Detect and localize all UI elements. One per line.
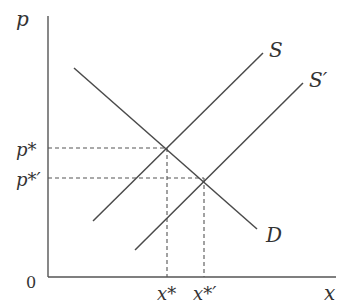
supply-curve <box>93 53 263 221</box>
p-star-prime-label: p*′ <box>16 169 41 190</box>
supply-demand-diagram: p x 0 S S′ D p* p*′ x* x*′ <box>0 0 349 304</box>
y-axis-label: p <box>16 7 29 31</box>
supply-shifted-label: S′ <box>309 68 328 92</box>
supply-label: S <box>269 38 283 62</box>
demand-label: D <box>265 223 282 247</box>
p-star-label: p* <box>16 139 37 160</box>
x-star-label: x* <box>157 283 176 304</box>
origin-label: 0 <box>26 273 36 292</box>
x-axis-label: x <box>324 281 335 304</box>
x-star-prime-label: x*′ <box>193 283 216 304</box>
